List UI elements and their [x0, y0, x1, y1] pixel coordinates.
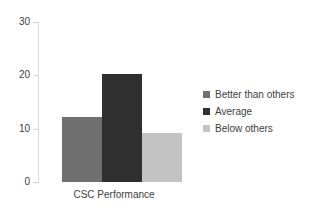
- bar-below-others: [142, 133, 182, 182]
- legend-item-label: Average: [215, 106, 252, 117]
- plot-area: [38, 22, 190, 182]
- bar-better-than-others: [62, 117, 102, 182]
- legend-item: Better than others: [203, 86, 320, 103]
- y-axis-tick: [33, 182, 38, 183]
- y-axis-tick-label: 30: [0, 17, 30, 27]
- legend-swatch-icon: [203, 125, 210, 132]
- legend-swatch-icon: [203, 108, 210, 115]
- legend-swatch-icon: [203, 91, 210, 98]
- legend-item: Average: [203, 103, 320, 120]
- y-axis-tick-label: 0: [0, 177, 30, 187]
- bar-chart: 0102030 CSC Performance Better than othe…: [0, 0, 320, 214]
- bar-average: [102, 74, 142, 182]
- y-axis-tick-label: 20: [0, 70, 30, 80]
- x-axis-category-label: CSC Performance: [38, 189, 190, 201]
- legend-item: Below others: [203, 120, 320, 137]
- y-axis-tick-label: 10: [0, 124, 30, 134]
- legend-item-label: Below others: [215, 123, 273, 134]
- chart-legend: Better than othersAverageBelow others: [203, 86, 320, 137]
- legend-item-label: Better than others: [215, 89, 295, 100]
